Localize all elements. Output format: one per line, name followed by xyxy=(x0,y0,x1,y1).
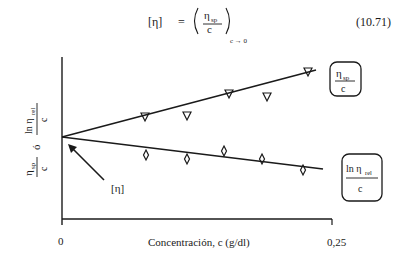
x-tick-0: 0 xyxy=(58,235,64,247)
triangle-marker xyxy=(263,93,271,101)
equation-limit: c → 0 xyxy=(230,37,248,45)
diamond-marker xyxy=(144,150,149,160)
fit-line-ln-eta-rel xyxy=(62,137,323,169)
series-eta-sp-markers xyxy=(141,68,312,121)
legend-ln-eta-rel: ln η rel c xyxy=(342,154,382,201)
svg-text:c: c xyxy=(341,83,346,94)
svg-text:ln η: ln η xyxy=(346,163,362,174)
fit-line-eta-sp xyxy=(62,70,316,137)
svg-text:rel: rel xyxy=(29,108,37,115)
legend-eta-sp: η sp c xyxy=(330,62,361,96)
x-tick-end: 0,25 xyxy=(327,236,347,248)
svg-text:ó: ó xyxy=(30,144,42,150)
equation: [η] = η sp c c → 0 (10.71) xyxy=(148,8,391,45)
triangle-marker xyxy=(141,113,149,121)
triangle-marker xyxy=(183,112,191,120)
viscosity-chart: [η] = η sp c c → 0 (10.71) η sp c ó ln η… xyxy=(0,0,413,263)
equation-equals: = xyxy=(178,15,185,29)
right-paren xyxy=(226,8,230,34)
equation-denominator: c xyxy=(207,23,212,35)
diamond-marker xyxy=(185,154,190,164)
svg-text:c: c xyxy=(38,166,49,171)
svg-text:η: η xyxy=(336,67,342,79)
svg-text:sp: sp xyxy=(29,162,37,169)
equation-lhs: [η] xyxy=(148,15,162,29)
svg-text:c: c xyxy=(358,183,363,194)
equation-number: (10.71) xyxy=(356,15,391,29)
intercept-label: [η] xyxy=(111,182,124,194)
diamond-marker xyxy=(222,146,227,156)
y-axis-label: η sp c ó ln η rel c xyxy=(22,103,49,177)
x-axis-label: Concentración, c (g/dl) xyxy=(148,236,250,249)
equation-numerator-sub: sp xyxy=(211,16,218,24)
svg-text:ln η: ln η xyxy=(23,118,34,134)
intercept-arrow xyxy=(72,148,104,180)
left-paren xyxy=(195,8,199,34)
svg-text:rel: rel xyxy=(365,169,372,176)
equation-numerator: η xyxy=(204,9,210,21)
svg-text:η: η xyxy=(22,170,34,176)
svg-text:c: c xyxy=(38,117,49,122)
